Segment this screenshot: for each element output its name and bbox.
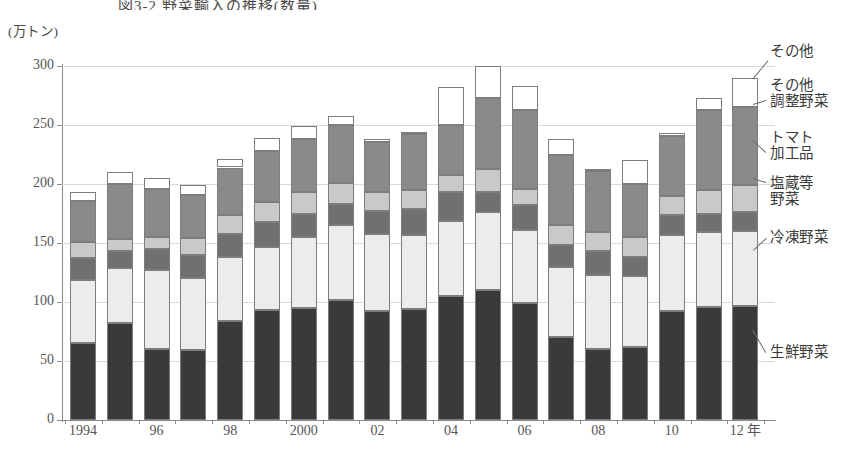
x-axis-label-2000: 2000 xyxy=(264,424,344,438)
bar-segment-その他調整野菜 xyxy=(107,184,133,239)
bar-segment-冷凍野菜 xyxy=(696,232,722,306)
bar-1994[interactable] xyxy=(70,192,96,420)
bar-segment-トマト加工品 xyxy=(475,169,501,193)
bar-segment-トマト加工品 xyxy=(364,192,390,211)
x-axis-line xyxy=(62,420,776,421)
bar-segment-塩蔵等野菜 xyxy=(622,257,648,276)
bar-segment-塩蔵等野菜 xyxy=(217,234,243,258)
bar-96[interactable] xyxy=(144,178,170,420)
bar-segment-その他 xyxy=(475,66,501,98)
bar-segment-その他 xyxy=(70,192,96,200)
figure-title: 図3-2 野菜輸入の推移(数量) xyxy=(118,0,538,10)
legend-label-other-prepared-vegetables: その他 調整野菜 xyxy=(770,78,828,109)
bar-segment-冷凍野菜 xyxy=(512,230,538,303)
bar-segment-冷凍野菜 xyxy=(107,268,133,323)
bar-segment-塩蔵等野菜 xyxy=(732,212,758,231)
bar-segment-その他 xyxy=(622,160,648,184)
bar-segment-生鮮野菜 xyxy=(180,350,206,420)
bar-segment-その他 xyxy=(254,138,280,151)
bar-09[interactable] xyxy=(622,160,648,420)
bar-segment-塩蔵等野菜 xyxy=(659,215,685,235)
x-axis-tick xyxy=(102,420,103,424)
bar-95[interactable] xyxy=(107,172,133,420)
x-axis-label-04: 04 xyxy=(411,424,491,438)
x-axis-tick xyxy=(396,420,397,424)
bar-segment-生鮮野菜 xyxy=(438,296,464,420)
bar-03[interactable] xyxy=(401,133,427,420)
bar-segment-その他 xyxy=(328,116,354,125)
bar-segment-生鮮野菜 xyxy=(254,310,280,420)
bar-98[interactable] xyxy=(217,159,243,420)
bar-segment-生鮮野菜 xyxy=(622,347,648,420)
x-axis-label-08: 08 xyxy=(558,424,638,438)
bar-segment-トマト加工品 xyxy=(438,175,464,193)
bar-segment-冷凍野菜 xyxy=(475,212,501,290)
x-axis-tick xyxy=(543,420,544,424)
bar-segment-トマト加工品 xyxy=(291,192,317,213)
bar-segment-トマト加工品 xyxy=(659,196,685,215)
bar-segment-その他調整野菜 xyxy=(585,171,611,232)
bar-segment-トマト加工品 xyxy=(622,237,648,257)
x-axis-tick xyxy=(617,420,618,424)
bar-segment-塩蔵等野菜 xyxy=(291,214,317,238)
x-axis-tick xyxy=(175,420,176,424)
bar-segment-塩蔵等野菜 xyxy=(438,192,464,220)
bar-segment-塩蔵等野菜 xyxy=(364,211,390,233)
bar-2000[interactable] xyxy=(291,126,317,420)
bar-segment-塩蔵等野菜 xyxy=(585,251,611,275)
bar-segment-その他調整野菜 xyxy=(622,184,648,237)
bar-segment-生鮮野菜 xyxy=(291,308,317,420)
x-axis-label-12: 12 年 xyxy=(705,424,785,438)
bar-segment-冷凍野菜 xyxy=(585,275,611,349)
bar-04[interactable] xyxy=(438,87,464,420)
bar-segment-トマト加工品 xyxy=(70,242,96,259)
bar-segment-その他 xyxy=(659,133,685,135)
bar-segment-トマト加工品 xyxy=(144,237,170,249)
bar-segment-その他 xyxy=(291,126,317,139)
bar-segment-その他 xyxy=(217,159,243,167)
bar-segment-その他調整野菜 xyxy=(438,125,464,175)
bar-segment-冷凍野菜 xyxy=(438,221,464,297)
gridline xyxy=(62,125,775,126)
bar-10[interactable] xyxy=(659,133,685,420)
bar-11[interactable] xyxy=(696,98,722,420)
bar-02[interactable] xyxy=(364,139,390,420)
bar-segment-生鮮野菜 xyxy=(475,290,501,420)
bar-segment-トマト加工品 xyxy=(217,215,243,234)
bar-segment-その他調整野菜 xyxy=(180,195,206,239)
bar-segment-その他調整野菜 xyxy=(512,110,538,189)
bar-segment-その他 xyxy=(512,86,538,110)
bar-segment-塩蔵等野菜 xyxy=(144,249,170,270)
bar-segment-生鮮野菜 xyxy=(70,343,96,420)
bar-97[interactable] xyxy=(180,185,206,420)
bar-segment-その他調整野菜 xyxy=(254,151,280,202)
bar-segment-その他調整野菜 xyxy=(70,201,96,242)
x-axis-tick xyxy=(764,420,765,424)
bar-segment-冷凍野菜 xyxy=(291,237,317,308)
bar-segment-塩蔵等野菜 xyxy=(328,204,354,225)
bar-01[interactable] xyxy=(328,116,354,420)
x-axis-tick xyxy=(323,420,324,424)
bar-segment-生鮮野菜 xyxy=(585,349,611,420)
bar-segment-トマト加工品 xyxy=(254,202,280,222)
bar-06[interactable] xyxy=(512,86,538,420)
bar-segment-生鮮野菜 xyxy=(328,300,354,420)
bar-segment-トマト加工品 xyxy=(512,189,538,206)
bar-segment-冷凍野菜 xyxy=(732,231,758,305)
bar-segment-生鮮野菜 xyxy=(401,309,427,420)
y-axis-tick xyxy=(57,420,62,421)
legend-label-other: その他 xyxy=(770,44,814,60)
x-axis-label-1994: 1994 xyxy=(43,424,123,438)
bar-segment-冷凍野菜 xyxy=(144,270,170,349)
x-axis-label-98: 98 xyxy=(190,424,270,438)
y-axis-tick xyxy=(57,302,62,303)
y-axis-tick xyxy=(57,184,62,185)
bar-segment-その他 xyxy=(401,132,427,134)
x-axis-tick xyxy=(691,420,692,424)
y-axis-tick xyxy=(57,361,62,362)
bar-07[interactable] xyxy=(548,139,574,420)
bar-05[interactable] xyxy=(475,66,501,420)
bar-08[interactable] xyxy=(585,170,611,420)
bar-99[interactable] xyxy=(254,138,280,420)
plot-area: 050100150200250300 xyxy=(62,66,775,420)
